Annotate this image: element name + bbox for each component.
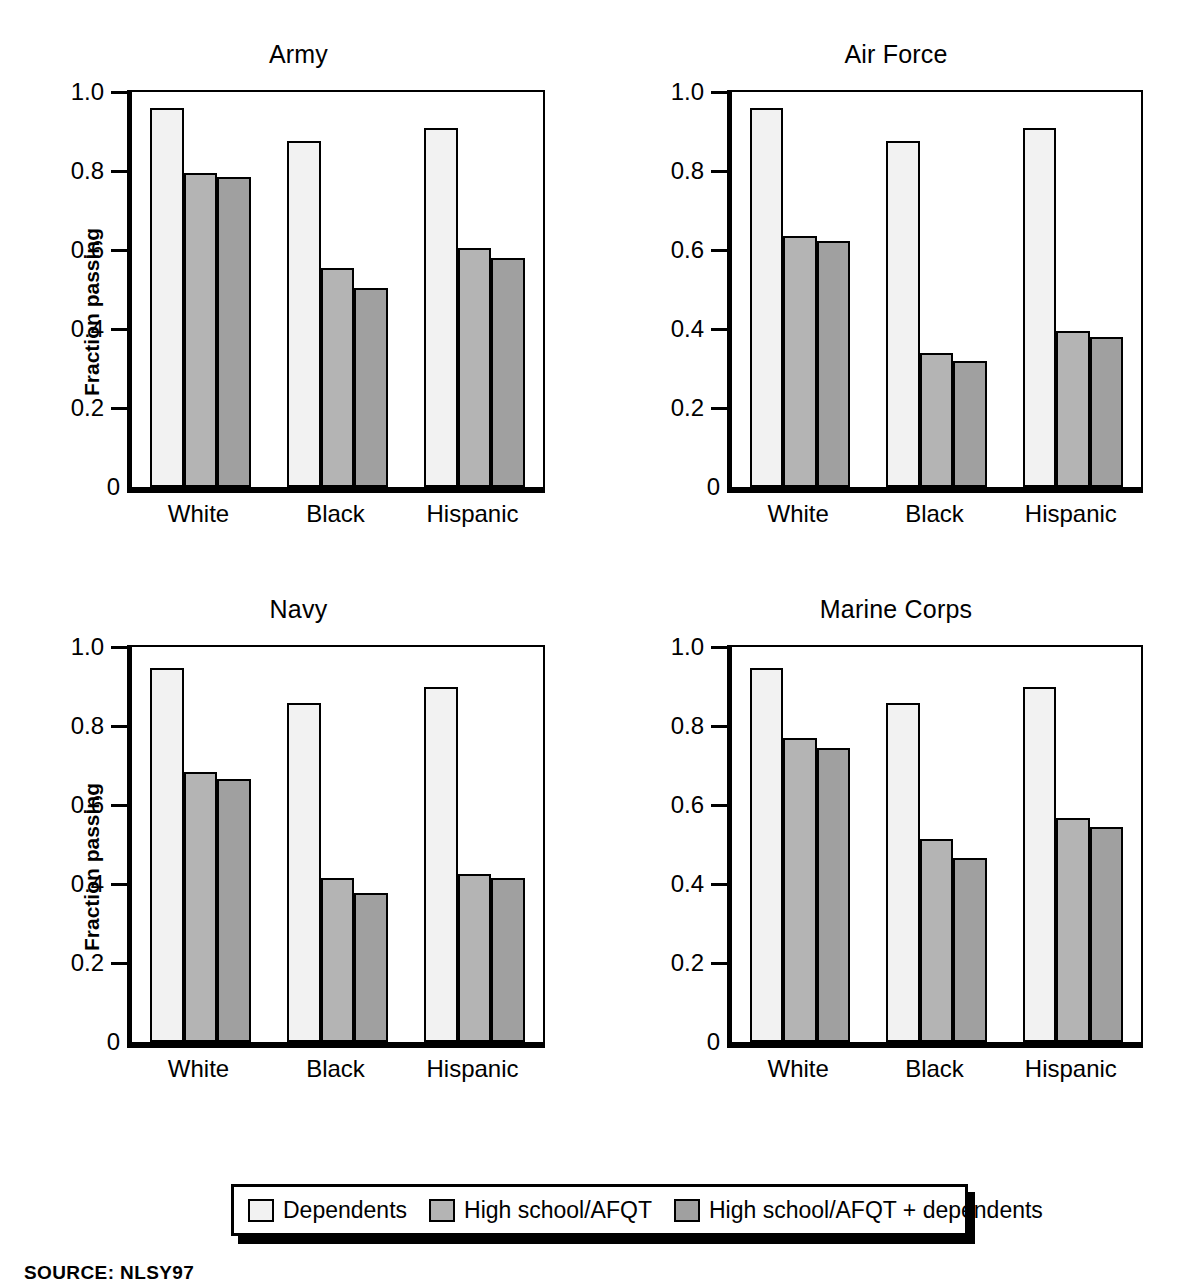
y-tick-label: 0.4: [71, 872, 111, 896]
legend-label: High school/AFQT: [464, 1197, 652, 1224]
y-tick-mark: [111, 170, 127, 173]
y-tick-label: 0.4: [671, 317, 711, 341]
x-tick-label: Black: [306, 1055, 365, 1083]
y-tick-label: 0.2: [71, 951, 111, 975]
bars-layer: [732, 647, 1141, 1042]
bar: [1023, 128, 1056, 487]
y-tick-label: 0.6: [71, 238, 111, 262]
x-tick-label: Hispanic: [426, 1055, 518, 1083]
legend-item: High school/AFQT + dependents: [674, 1197, 1043, 1224]
y-tick-mark: [711, 170, 727, 173]
bar: [321, 878, 355, 1042]
bar: [217, 177, 251, 487]
x-tick-label: White: [168, 500, 229, 528]
bar: [150, 108, 184, 487]
y-axis-ticks: 00.20.40.60.81.0: [0, 645, 127, 1048]
y-tick-mark: [111, 725, 127, 728]
bar: [1023, 687, 1056, 1042]
bar: [750, 108, 783, 487]
figure-page: ArmyFraction passing00.20.40.60.81.0Whit…: [0, 0, 1195, 1284]
bar: [354, 893, 388, 1042]
bars-layer: [132, 647, 543, 1042]
bar: [287, 141, 321, 487]
bar: [920, 839, 953, 1042]
bar: [750, 668, 783, 1042]
bar: [321, 268, 355, 487]
y-tick-mark: [711, 804, 727, 807]
legend: DependentsHigh school/AFQTHigh school/AF…: [231, 1184, 968, 1238]
plot-area: [127, 645, 545, 1048]
bar-group: [1005, 647, 1141, 1042]
y-tick-mark: [711, 962, 727, 965]
y-tick-mark: [111, 407, 127, 410]
panel-title: Army: [0, 40, 597, 69]
bar-group: [868, 92, 1004, 487]
y-tick-mark: [711, 249, 727, 252]
y-tick-mark: [111, 328, 127, 331]
y-tick-label: 1.0: [671, 80, 711, 104]
bar-group: [732, 647, 868, 1042]
y-tick-mark: [711, 725, 727, 728]
bar: [458, 874, 492, 1042]
x-tick-label: White: [767, 500, 828, 528]
panel-grid: ArmyFraction passing00.20.40.60.81.0Whit…: [0, 34, 1195, 1144]
bar: [1056, 331, 1089, 487]
bar-group: [868, 647, 1004, 1042]
x-tick-label: Black: [905, 1055, 964, 1083]
plot-area: [727, 90, 1143, 493]
y-tick-label: 0.8: [71, 159, 111, 183]
y-tick-label: 0.2: [671, 951, 711, 975]
y-tick-label: 0.4: [71, 317, 111, 341]
bar: [491, 878, 525, 1042]
y-tick-label: 1.0: [671, 635, 711, 659]
y-tick-mark: [111, 962, 127, 965]
y-tick-mark: [711, 91, 727, 94]
x-tick-label: Black: [306, 500, 365, 528]
bar: [920, 353, 953, 487]
bar: [953, 858, 986, 1042]
plot-area: [727, 645, 1143, 1048]
bar-group: [132, 647, 269, 1042]
bars-layer: [732, 92, 1141, 487]
bar: [783, 236, 816, 487]
panel-title: Navy: [0, 595, 597, 624]
y-tick-label: 1.0: [71, 635, 111, 659]
y-tick-label: 0: [107, 1030, 127, 1054]
bar: [150, 668, 184, 1042]
bars-layer: [132, 92, 543, 487]
y-tick-label: 0.2: [671, 396, 711, 420]
plot-area: [127, 90, 545, 493]
bar: [354, 288, 388, 487]
bar-group: [269, 92, 406, 487]
bar: [491, 258, 525, 487]
y-axis-ticks: 00.20.40.60.81.0: [0, 90, 127, 493]
x-tick-label: White: [767, 1055, 828, 1083]
y-tick-mark: [111, 91, 127, 94]
legend-swatch: [248, 1199, 274, 1222]
legend-swatch: [674, 1199, 700, 1222]
y-tick-label: 0.2: [71, 396, 111, 420]
bar: [817, 241, 850, 487]
panel-title: Air Force: [597, 40, 1195, 69]
bar: [217, 779, 251, 1042]
legend-label: High school/AFQT + dependents: [709, 1197, 1043, 1224]
bar: [1090, 337, 1123, 487]
bar: [1090, 827, 1123, 1042]
chart-panel: Marine Corps00.20.40.60.81.0WhiteBlackHi…: [597, 589, 1195, 1144]
y-tick-mark: [111, 883, 127, 886]
y-tick-mark: [111, 804, 127, 807]
y-tick-label: 0.8: [671, 714, 711, 738]
chart-panel: ArmyFraction passing00.20.40.60.81.0Whit…: [0, 34, 597, 589]
bar-group: [406, 647, 543, 1042]
x-axis-labels: WhiteBlackHispanic: [727, 500, 1143, 534]
y-tick-mark: [111, 249, 127, 252]
legend-item: Dependents: [248, 1197, 407, 1224]
bar: [184, 173, 218, 487]
y-tick-label: 0: [707, 1030, 727, 1054]
y-tick-label: 0: [107, 475, 127, 499]
y-tick-label: 0.8: [671, 159, 711, 183]
y-tick-label: 0.6: [671, 238, 711, 262]
y-tick-label: 0.6: [71, 793, 111, 817]
y-tick-label: 0.4: [671, 872, 711, 896]
bar: [886, 141, 919, 487]
